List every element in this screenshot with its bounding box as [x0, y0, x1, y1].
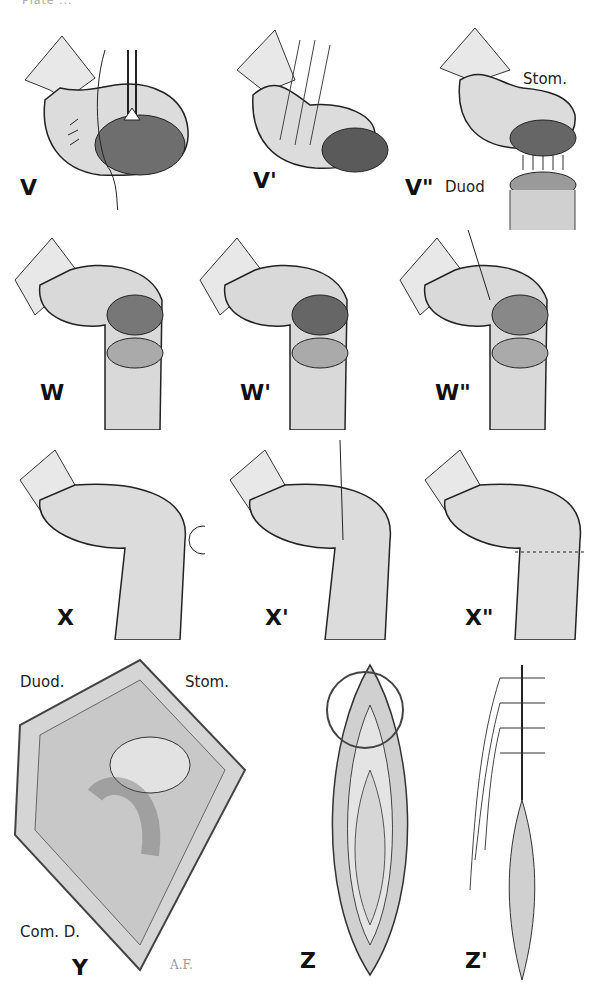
figure-label: W' [240, 380, 271, 405]
figure-y: Duod. Stom. Com. D. Y A.F. [10, 655, 255, 985]
figure-label: V' [253, 168, 277, 193]
figure-label: X' [265, 605, 289, 630]
artist-signature: A.F. [170, 958, 193, 972]
figure-x: X [15, 440, 205, 640]
anastomosis-closure-illustration [420, 440, 601, 640]
anastomosis-closure-illustration [15, 440, 205, 640]
figure-label: Z [300, 948, 316, 973]
annotation-duodenum: Duod [445, 178, 485, 196]
figure-label: W [40, 380, 64, 405]
figure-label: X [57, 605, 74, 630]
figure-label: W" [435, 380, 471, 405]
figure-v-prime: V' [225, 20, 400, 210]
figure-z: Z [285, 660, 445, 985]
annotation-duodenum: Duod. [20, 673, 65, 691]
figure-label: X" [465, 605, 493, 630]
gastroduodenal-suture-illustration [395, 230, 595, 430]
skin-closure-illustration [460, 660, 601, 985]
stomach-open-illustration [20, 20, 195, 210]
figure-z-prime: Z' [460, 660, 601, 985]
gastroduodenal-suture-illustration [10, 230, 190, 430]
figure-v: V [20, 20, 195, 210]
figure-x-double-prime: X" [420, 440, 601, 640]
gastroduodenal-suture-illustration [195, 230, 375, 430]
figure-w-double-prime: W" [395, 230, 595, 430]
figure-v-double-prime: Stom. Duod V" [405, 20, 601, 230]
plate-header: Plate ... [22, 0, 73, 7]
figure-w-prime: W' [195, 230, 375, 430]
figure-x-prime: X' [225, 440, 395, 640]
anastomosis-closure-illustration [225, 440, 395, 640]
figure-w: W [10, 230, 190, 430]
annotation-common-duct: Com. D. [20, 923, 80, 941]
stomach-closing-illustration [225, 20, 400, 210]
figure-label: V [20, 175, 37, 200]
stomach-duodenum-illustration [405, 20, 601, 230]
figure-label: Z' [465, 948, 488, 973]
figure-label: Y [72, 955, 88, 980]
annotation-stomach: Stom. [523, 70, 567, 88]
figure-label: V" [405, 175, 434, 200]
annotation-stomach: Stom. [185, 673, 229, 691]
wound-closure-illustration [285, 660, 445, 985]
